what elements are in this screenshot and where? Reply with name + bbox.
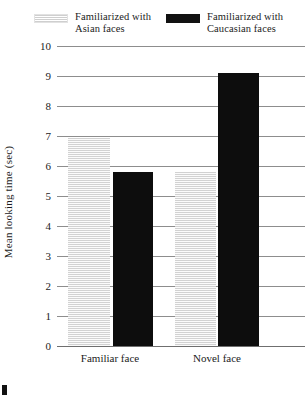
- x-label-familiar-face: Familiar face: [81, 352, 139, 364]
- y-tick-8: 8: [31, 101, 51, 112]
- y-tick-3: 3: [31, 251, 51, 262]
- y-tick-2: 2: [31, 281, 51, 292]
- gridline-0-baseline: [57, 346, 305, 347]
- gridline-10: [57, 46, 305, 47]
- gridline-8: [57, 106, 305, 107]
- y-tick-7: 7: [31, 131, 51, 142]
- hatched-light-swatch-icon: [34, 14, 68, 23]
- solid-black-swatch-icon: [166, 14, 200, 23]
- gridline-9: [57, 76, 305, 77]
- chart-legend: Familiarized with Asian faces Familiariz…: [34, 11, 308, 41]
- legend-label-asian: Familiarized with Asian faces: [75, 11, 151, 36]
- bar-novel-caucasian: [218, 73, 259, 346]
- y-tick-1: 1: [31, 311, 51, 322]
- x-label-novel-face: Novel face: [193, 352, 241, 364]
- page-edge-artifact: [2, 385, 7, 395]
- y-tick-10: 10: [31, 41, 51, 52]
- x-axis-labels: Familiar face Novel face: [57, 352, 305, 370]
- plot-area: 10 9 8 7 6 5 4 3 2 1 0: [57, 46, 305, 346]
- legend-entry-asian: Familiarized with Asian faces: [34, 11, 151, 36]
- bar-familiar-asian: [68, 138, 110, 347]
- y-tick-6: 6: [31, 161, 51, 172]
- y-tick-5: 5: [31, 191, 51, 202]
- legend-entry-caucasian: Familiarized with Caucasian faces: [166, 11, 283, 36]
- y-tick-4: 4: [31, 221, 51, 232]
- bar-novel-asian: [175, 172, 216, 346]
- y-tick-0: 0: [31, 341, 51, 352]
- bar-familiar-caucasian: [113, 172, 153, 346]
- y-axis-title: Mean looking time (sec): [2, 145, 14, 257]
- y-tick-9: 9: [31, 71, 51, 82]
- legend-label-caucasian: Familiarized with Caucasian faces: [207, 11, 283, 36]
- bar-chart-figure: Familiarized with Asian faces Familiariz…: [0, 0, 308, 403]
